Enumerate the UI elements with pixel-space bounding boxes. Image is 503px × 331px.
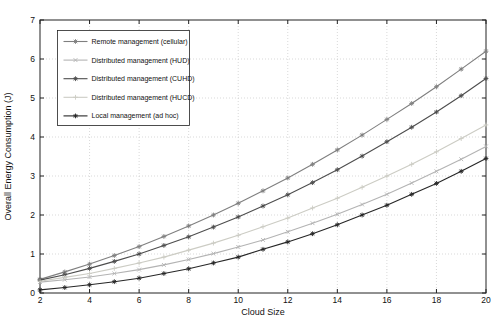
x-tick-label: 8 [186, 295, 191, 305]
asterisk-marker-icon [409, 125, 414, 130]
x-tick-label: 2 [38, 295, 43, 305]
x-tick-label: 18 [432, 295, 442, 305]
x-tick-label: 16 [382, 295, 392, 305]
asterisk-marker-icon [73, 76, 78, 81]
asterisk-marker-icon [211, 213, 216, 218]
asterisk-marker-icon [62, 285, 67, 290]
asterisk-marker-icon [211, 225, 216, 230]
asterisk-marker-icon [186, 224, 191, 229]
asterisk-marker-icon [161, 243, 166, 248]
chart-canvas: 246810121416182001234567Cloud SizeOveral… [0, 0, 503, 331]
legend-label: Distributed management (HUCD) [92, 94, 195, 102]
asterisk-marker-icon [211, 261, 216, 266]
asterisk-marker-icon [112, 279, 117, 284]
x-axis-label: Cloud Size [241, 307, 285, 317]
asterisk-marker-icon [459, 169, 464, 174]
y-tick-label: 5 [30, 93, 35, 103]
asterisk-marker-icon [335, 147, 340, 152]
asterisk-marker-icon [285, 176, 290, 181]
asterisk-marker-icon [137, 244, 142, 249]
asterisk-marker-icon [112, 253, 117, 258]
asterisk-marker-icon [261, 247, 266, 252]
asterisk-marker-icon [434, 110, 439, 115]
asterisk-marker-icon [409, 192, 414, 197]
asterisk-marker-icon [137, 276, 142, 281]
asterisk-marker-icon [38, 287, 43, 292]
asterisk-marker-icon [360, 213, 365, 218]
asterisk-marker-icon [236, 215, 241, 220]
y-tick-label: 0 [30, 288, 35, 298]
asterisk-marker-icon [384, 117, 389, 122]
asterisk-marker-icon [73, 114, 78, 119]
x-tick-label: 14 [333, 295, 343, 305]
asterisk-marker-icon [434, 84, 439, 89]
y-tick-label: 1 [30, 249, 35, 259]
asterisk-marker-icon [360, 133, 365, 138]
y-axis-label: Overall Energy Consumption (J) [3, 92, 13, 220]
asterisk-marker-icon [186, 234, 191, 239]
legend-label: Remote management (cellular) [92, 38, 188, 46]
x-tick-label: 10 [233, 295, 243, 305]
asterisk-marker-icon [87, 282, 92, 287]
y-tick-label: 3 [30, 171, 35, 181]
asterisk-marker-icon [261, 204, 266, 209]
asterisk-marker-icon [87, 262, 92, 267]
asterisk-marker-icon [161, 234, 166, 239]
asterisk-marker-icon [236, 255, 241, 260]
asterisk-marker-icon [87, 266, 92, 271]
asterisk-marker-icon [310, 180, 315, 185]
asterisk-marker-icon [335, 167, 340, 172]
asterisk-marker-icon [112, 259, 117, 264]
y-tick-label: 2 [30, 210, 35, 220]
asterisk-marker-icon [484, 49, 489, 54]
y-tick-label: 7 [30, 15, 35, 25]
asterisk-marker-icon [73, 39, 78, 44]
energy-consumption-line-chart: 246810121416182001234567Cloud SizeOveral… [0, 0, 503, 331]
legend-label: Local management (ad hoc) [92, 112, 179, 120]
asterisk-marker-icon [285, 240, 290, 245]
asterisk-marker-icon [161, 271, 166, 276]
legend-label: Distributed management (HUD) [92, 57, 190, 65]
asterisk-marker-icon [310, 162, 315, 167]
asterisk-marker-icon [484, 156, 489, 161]
x-tick-label: 4 [87, 295, 92, 305]
asterisk-marker-icon [484, 76, 489, 81]
x-tick-label: 20 [481, 295, 491, 305]
asterisk-marker-icon [261, 188, 266, 193]
asterisk-marker-icon [459, 67, 464, 72]
y-tick-label: 4 [30, 132, 35, 142]
legend-label: Distributed management (CUHD) [92, 75, 195, 83]
asterisk-marker-icon [310, 231, 315, 236]
asterisk-marker-icon [360, 154, 365, 159]
asterisk-marker-icon [186, 266, 191, 271]
y-tick-label: 6 [30, 54, 35, 64]
x-tick-label: 6 [137, 295, 142, 305]
asterisk-marker-icon [285, 192, 290, 197]
x-tick-label: 12 [283, 295, 293, 305]
asterisk-marker-icon [384, 139, 389, 144]
asterisk-marker-icon [409, 101, 414, 106]
asterisk-marker-icon [236, 201, 241, 206]
asterisk-marker-icon [137, 252, 142, 257]
asterisk-marker-icon [335, 222, 340, 227]
asterisk-marker-icon [384, 203, 389, 208]
asterisk-marker-icon [459, 93, 464, 98]
asterisk-marker-icon [434, 181, 439, 186]
